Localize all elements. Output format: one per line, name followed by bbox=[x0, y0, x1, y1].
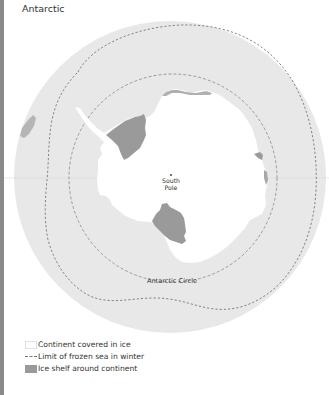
map-legend: Continent covered in ice Limit of frozen… bbox=[25, 339, 144, 375]
continent-swatch-icon bbox=[25, 341, 37, 349]
south-pole-label: South bbox=[162, 177, 180, 184]
antarctic-map: South Pole Antarctic Circle bbox=[0, 0, 329, 395]
dashed-line-swatch-icon bbox=[25, 356, 37, 357]
ice-shelf-swatch-icon bbox=[25, 365, 37, 373]
legend-label: Ice shelf around continent bbox=[38, 364, 137, 373]
south-pole-marker bbox=[170, 174, 172, 176]
legend-item-ice-shelf: Ice shelf around continent bbox=[25, 363, 144, 374]
south-pole-label-line2: Pole bbox=[165, 184, 178, 191]
legend-item-continent: Continent covered in ice bbox=[25, 339, 144, 350]
legend-label: Continent covered in ice bbox=[38, 340, 131, 349]
legend-label: Limit of frozen sea in winter bbox=[38, 352, 144, 361]
map-title: Antarctic bbox=[22, 3, 65, 14]
legend-item-frozen-sea-limit: Limit of frozen sea in winter bbox=[25, 351, 144, 362]
antarctic-circle-label: Antarctic Circle bbox=[147, 277, 197, 285]
